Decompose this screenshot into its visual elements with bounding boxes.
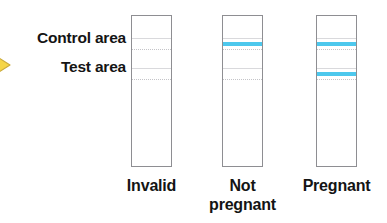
test-area-label: Test area — [8, 59, 126, 75]
test-guide-dotted — [223, 79, 262, 80]
control-result-line — [317, 42, 356, 46]
strip-caption-pregnant: Pregnant — [286, 176, 387, 195]
pregnancy-test-result-figure: Control area Test area Invalid Not pregn… — [0, 0, 387, 223]
caption-line: Not — [192, 176, 293, 195]
caption-line: Invalid — [101, 176, 202, 195]
control-area-label: Control area — [8, 30, 126, 46]
test-result-line — [317, 72, 356, 76]
test-guide-dotted — [317, 79, 356, 80]
caption-line: pregnant — [192, 195, 293, 214]
test-strip-invalid — [131, 15, 172, 167]
control-guide-dotted — [132, 49, 171, 50]
test-guide-line — [317, 68, 356, 69]
control-result-line — [223, 42, 262, 46]
test-strip-not-pregnant — [222, 15, 263, 167]
test-guide-line — [223, 68, 262, 69]
control-guide-dotted — [223, 49, 262, 50]
control-guide-dotted — [317, 49, 356, 50]
strip-caption-invalid: Invalid — [101, 176, 202, 195]
test-strip-pregnant — [316, 15, 357, 167]
control-guide-line — [223, 38, 262, 39]
area-label-stack: Control area Test area — [8, 30, 126, 74]
strip-caption-not-pregnant: Not pregnant — [192, 176, 293, 214]
control-guide-line — [317, 38, 356, 39]
control-guide-line — [132, 38, 171, 39]
caption-line: Pregnant — [286, 176, 387, 195]
test-guide-dotted — [132, 79, 171, 80]
test-guide-line — [132, 68, 171, 69]
